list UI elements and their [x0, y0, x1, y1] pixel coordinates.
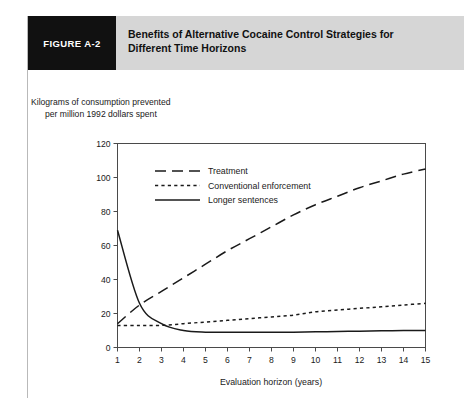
x-tick-label: 6 — [225, 355, 230, 365]
series-line-conventional-enforcement — [118, 303, 426, 325]
y-tick-label: 80 — [101, 207, 111, 217]
x-tick-label: 14 — [399, 355, 409, 365]
data-series-group — [118, 169, 426, 332]
chart-legend: TreatmentConventional enforcementLonger … — [155, 166, 311, 205]
legend-label: Longer sentences — [208, 195, 279, 205]
x-tick-label: 1 — [115, 355, 120, 365]
x-tick-label: 13 — [377, 355, 387, 365]
y-tick-label: 20 — [101, 309, 111, 319]
x-tick-label: 10 — [311, 355, 321, 365]
x-tick-label: 5 — [203, 355, 208, 365]
x-tick-label: 7 — [247, 355, 252, 365]
legend-label: Conventional enforcement — [208, 181, 311, 191]
y-tick-label: 120 — [96, 139, 111, 149]
series-line-treatment — [118, 169, 426, 324]
chart-svg: 020406080100120 123456789101112131415 Tr… — [0, 0, 476, 418]
x-tick-label: 9 — [291, 355, 296, 365]
x-tick-label: 12 — [355, 355, 365, 365]
x-tick-label: 4 — [181, 355, 186, 365]
y-tick-label: 100 — [96, 173, 111, 183]
y-axis-ticks: 020406080100120 — [96, 139, 117, 353]
x-tick-label: 2 — [137, 355, 142, 365]
x-tick-label: 11 — [333, 355, 342, 365]
legend-label: Treatment — [208, 166, 248, 176]
figure-page: FIGURE A-2 Benefits of Alternative Cocai… — [0, 0, 476, 418]
y-tick-label: 0 — [106, 343, 111, 353]
x-axis-ticks: 123456789101112131415 — [115, 348, 430, 365]
x-tick-label: 8 — [269, 355, 274, 365]
x-axis-title: Evaluation horizon (years) — [220, 377, 322, 387]
x-tick-label: 15 — [421, 355, 431, 365]
line-chart: 020406080100120 123456789101112131415 Tr… — [0, 0, 476, 418]
y-tick-label: 60 — [101, 241, 111, 251]
x-tick-label: 3 — [159, 355, 164, 365]
y-tick-label: 40 — [101, 275, 111, 285]
